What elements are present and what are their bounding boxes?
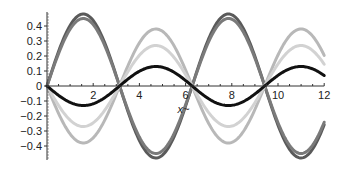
x-axis-label: x~ <box>177 103 191 115</box>
y-tick-label: 0.3 <box>27 35 42 47</box>
y-tick-label: −0.4 <box>20 140 42 152</box>
x-tick-label: 6 <box>183 89 189 101</box>
x-tick-label: 8 <box>229 89 235 101</box>
y-tick-label: 0.2 <box>27 50 42 62</box>
x-tick-label: 2 <box>90 89 96 101</box>
x-tick-label: 12 <box>318 89 330 101</box>
x-tick-label: 4 <box>136 89 142 101</box>
y-tick-label: 0.4 <box>27 20 42 32</box>
line-chart: 24681012x~−0.4−0.3−0.2−0.100.10.20.30.4 <box>0 0 343 173</box>
y-tick-label: −0.2 <box>20 110 42 122</box>
y-tick-label: 0.1 <box>27 65 42 77</box>
y-tick-label: 0 <box>36 80 42 92</box>
y-tick-label: −0.3 <box>20 125 42 137</box>
y-tick-label: −0.1 <box>20 95 42 107</box>
x-tick-label: 10 <box>272 89 284 101</box>
